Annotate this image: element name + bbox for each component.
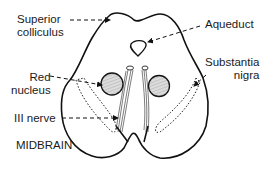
label-superior-colliculus-line1: Superior [17, 13, 64, 26]
label-red-nucleus-line2: nucleus [11, 84, 51, 97]
label-aqueduct: Aqueduct [205, 18, 254, 31]
label-red-nucleus-line1: Red [11, 71, 51, 84]
label-substantia-nigra: Substantia nigra [205, 56, 259, 82]
label-substantia-nigra-line2: nigra [205, 69, 259, 82]
label-substantia-nigra-line1: Substantia [205, 56, 259, 69]
label-superior-colliculus: Superior colliculus [17, 13, 64, 39]
label-superior-colliculus-line2: colliculus [17, 26, 64, 39]
leader-aqueduct [148, 26, 200, 42]
diagram-title: MIDBRAIN [16, 139, 72, 152]
label-red-nucleus: Red nucleus [11, 71, 51, 97]
iii-nerve-exit-left [116, 126, 128, 142]
label-iii-nerve: III nerve [14, 112, 56, 125]
midbrain-outline [61, 13, 208, 158]
iii-nerve-right [142, 66, 149, 132]
midbrain-diagram: Superior colliculus Aqueduct Substantia … [0, 0, 272, 170]
aqueduct-shape [131, 41, 147, 56]
